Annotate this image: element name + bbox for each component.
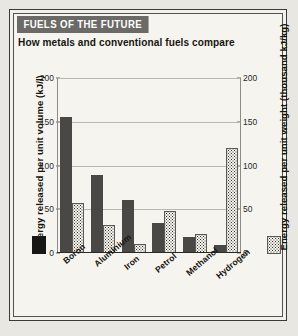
y-tick-label: 100	[243, 161, 269, 171]
chart-title-banner: FUELS OF THE FUTURE	[17, 16, 149, 33]
y-axis-left-title: Energy released per unit volume (kJ/l)	[34, 101, 45, 251]
y-tick-label: 150	[243, 117, 269, 127]
bar-group	[60, 78, 84, 253]
x-tick-label: Iron	[122, 253, 141, 271]
y-axis-right-ticks: 050100150200	[243, 78, 269, 253]
y-axis-right-title: Energy released per unit weight (thousan…	[278, 101, 289, 251]
legend-dotted-swatch	[267, 236, 281, 254]
bar	[226, 148, 238, 253]
plot-area	[57, 78, 241, 253]
bar-group	[122, 78, 146, 253]
bar-group	[183, 78, 207, 253]
x-axis-labels: BoronAluminiumIronPetrolMethanolHydrogen	[57, 256, 241, 316]
y-tick-label: 200	[243, 73, 269, 83]
bar	[91, 175, 103, 253]
bar	[164, 211, 176, 253]
bar-groups	[57, 78, 241, 253]
chart-subtitle: How metals and conventional fuels compar…	[18, 36, 235, 48]
bar	[152, 223, 164, 253]
legend-solid-swatch	[32, 236, 46, 254]
chart-frame: FUELS OF THE FUTURE How metals and conve…	[9, 9, 287, 321]
bar	[195, 234, 207, 253]
bar-group	[152, 78, 176, 253]
bar-group	[91, 78, 115, 253]
bar-group	[214, 78, 238, 253]
y-tick-label: 50	[243, 204, 269, 214]
bar	[60, 117, 72, 253]
